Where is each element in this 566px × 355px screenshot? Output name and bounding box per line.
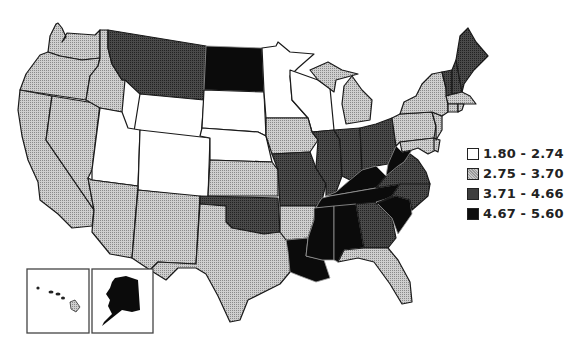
legend-item-1: 1.80 - 2.74 [467, 144, 564, 163]
state-NM [132, 190, 200, 270]
inset-alaska [92, 269, 153, 333]
legend-item-3: 3.71 - 4.66 [467, 184, 564, 203]
inset-hawaii [27, 269, 89, 333]
legend-label: 1.80 - 2.74 [483, 146, 564, 161]
state-MI [342, 76, 372, 124]
legend-swatch-black [467, 208, 479, 220]
state-UT [92, 108, 140, 186]
legend-label: 3.71 - 4.66 [483, 186, 564, 201]
state-CT [448, 104, 458, 112]
state-NY [400, 72, 448, 116]
state-DE [434, 138, 440, 152]
legend-label: 4.67 - 5.60 [483, 206, 564, 221]
legend-item-2: 2.75 - 3.70 [467, 164, 564, 183]
legend: 1.80 - 2.74 2.75 - 3.70 3.71 - 4.66 4.67… [467, 144, 564, 224]
legend-label: 2.75 - 3.70 [483, 166, 564, 181]
legend-item-4: 4.67 - 5.60 [467, 204, 564, 223]
legend-swatch-light-gray [467, 168, 479, 180]
legend-swatch-dark-gray [467, 188, 479, 200]
state-KS [208, 160, 278, 196]
state-FL [338, 248, 412, 304]
legend-swatch-white [467, 148, 479, 160]
state-ND [204, 46, 264, 92]
state-ME [456, 28, 488, 92]
state-AZ [88, 178, 138, 258]
state-RI [458, 104, 464, 112]
state-NE [200, 128, 272, 162]
state-CO [138, 130, 210, 198]
